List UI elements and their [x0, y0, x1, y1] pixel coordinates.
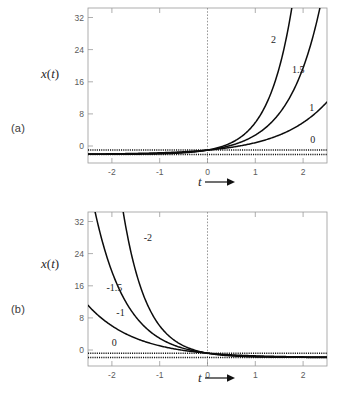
- panel-b-ytick-8: 8: [79, 313, 84, 323]
- panel-a-ytick-32: 32: [75, 13, 85, 23]
- panel-a-xlabel: t: [198, 174, 235, 190]
- panel-a-ytick-8: 8: [79, 109, 84, 119]
- panel-b-ylabel: x(t): [41, 256, 59, 272]
- panel-a-ylabel: x(t): [41, 66, 59, 82]
- panel-b-y-ticks: 0 8 16 24 32: [75, 217, 93, 356]
- panel-a-plot: 0 8 16 24 32 -2 -1 0 1 2: [0, 0, 343, 198]
- panel-b-xtick-neg1: -1: [156, 370, 164, 380]
- panel-a: (a) x(t) t: [0, 0, 343, 198]
- panel-b-xtick-1: 1: [253, 370, 258, 380]
- arrow-right-icon: [205, 177, 235, 187]
- xlabel-t: t: [198, 174, 202, 190]
- panel-a-label-2: 2: [271, 34, 276, 45]
- panel-b-label--2: -2: [144, 232, 152, 243]
- panel-b-ytick-16: 16: [75, 281, 85, 291]
- panel-a-ytick-16: 16: [75, 77, 85, 87]
- panel-b-ytick-24: 24: [75, 249, 85, 259]
- ylabel-paren-close: ): [55, 66, 59, 81]
- panel-a-ytick-24: 24: [75, 45, 85, 55]
- panel-b-xtick-neg2: -2: [108, 370, 116, 380]
- ylabel-paren-close: ): [55, 256, 59, 271]
- panel-b-plot: 0 8 16 24 32 -2 -1 0 1 2: [0, 198, 343, 396]
- panel-a-label-0: 0: [310, 134, 315, 145]
- panel-a-xtick-1: 1: [253, 167, 258, 177]
- panel-a-xtick-neg1: -1: [156, 167, 164, 177]
- panel-b-label-0: 0: [112, 337, 117, 348]
- panel-a-label-1: 1: [309, 102, 314, 113]
- panel-b-label--1: -1: [116, 307, 124, 318]
- panel-a-y-ticks: 0 8 16 24 32: [75, 13, 93, 152]
- panel-b-ytick-32: 32: [75, 217, 85, 227]
- panel-b-xtick-2: 2: [301, 370, 306, 380]
- panel-a-x-ticks: -2 -1 0 1 2: [108, 8, 306, 177]
- panel-b: (b) x(t) t: [0, 198, 343, 396]
- panel-b-ytick-0: 0: [79, 345, 84, 355]
- panel-a-xtick-neg2: -2: [108, 167, 116, 177]
- panel-b-label--1_5: -1.5: [106, 282, 122, 293]
- panel-b-x-ticks: -2 -1 0 1 2: [108, 212, 306, 380]
- arrow-right-icon: [205, 373, 235, 383]
- panel-a-label-1_5: 1.5: [292, 64, 305, 75]
- panel-a-tag: (a): [11, 122, 25, 134]
- panel-a-ytick-0: 0: [79, 141, 84, 151]
- xlabel-t: t: [198, 370, 202, 386]
- panel-a-xtick-2: 2: [301, 167, 306, 177]
- panel-b-xlabel: t: [198, 370, 235, 386]
- figure-exponential-signals: (a) x(t) t: [0, 0, 343, 396]
- panel-b-tag: (b): [11, 303, 25, 315]
